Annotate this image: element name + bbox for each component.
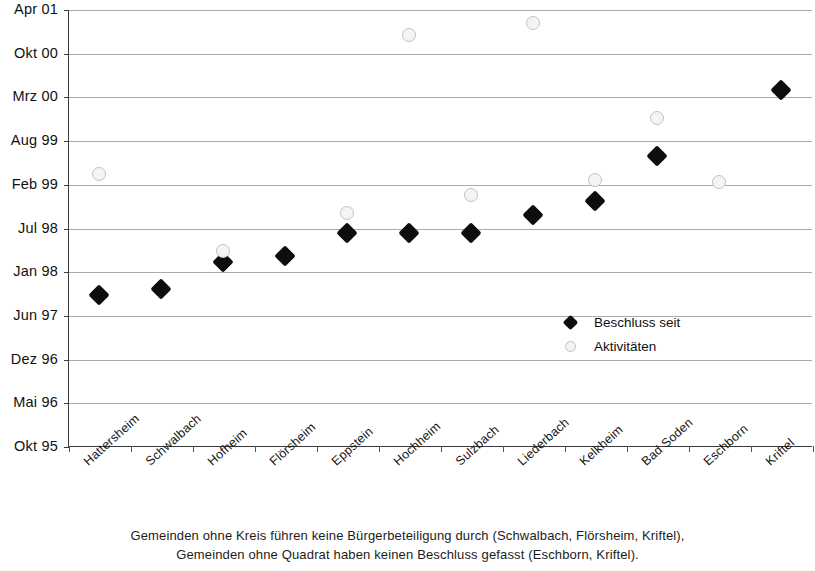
y-axis-tick-label: Mai 96 [0,394,58,410]
x-axis-tick [503,446,504,452]
y-axis-tick [64,360,69,361]
gridline [69,54,812,55]
legend-item-label: Beschluss seit [594,315,680,330]
y-axis-tick-label: Dez 96 [0,351,58,367]
y-axis-tick [64,272,69,273]
marker-aktivitaeten-hofheim [216,244,230,258]
x-axis-tick [193,446,194,452]
x-axis-tick [255,446,256,452]
gridline [69,360,812,361]
plot-area [68,10,812,447]
x-axis-tick [317,446,318,452]
y-axis-tick [64,185,69,186]
marker-aktivitaeten-hochheim [402,28,416,42]
y-axis-tick-label: Jun 97 [0,307,58,323]
gridline [69,185,812,186]
x-axis-tick [751,446,752,452]
marker-aktivitaeten-eppstein [340,206,354,220]
x-axis-tick [565,446,566,452]
legend-item-label: Aktivitäten [594,339,656,354]
x-axis-tick [441,446,442,452]
x-axis-tick [69,446,70,452]
x-axis-tick [131,446,132,452]
y-axis-tick-label: Jan 98 [0,263,58,279]
gridline [69,229,812,230]
y-axis-tick-label: Okt 95 [0,438,58,454]
scatter-chart: Apr 01Okt 00Mrz 00Aug 99Feb 99Jul 98Jan … [0,0,815,571]
marker-aktivitaeten-kelkheim [588,173,602,187]
marker-aktivitaeten-hattersheim [92,167,106,181]
filled-diamond-icon [558,317,582,328]
marker-aktivitaeten-sulzbach [464,188,478,202]
marker-aktivitaeten-bad-soden [650,111,664,125]
marker-aktivitaeten-eschborn [712,175,726,189]
gridline [69,403,812,404]
open-circle-icon [558,341,582,352]
x-axis-tick [813,446,814,452]
y-axis-tick [64,403,69,404]
y-axis-tick-label: Jul 98 [0,220,58,236]
caption-line-1: Gemeinden ohne Kreis führen keine Bürger… [0,528,815,543]
gridline [69,10,812,11]
gridline [69,97,812,98]
x-axis-tick [627,446,628,452]
y-axis-tick-label: Feb 99 [0,176,58,192]
chart-legend: Beschluss seitAktivitäten [558,310,728,358]
marker-aktivitaeten-liederbach [526,16,540,30]
gridline [69,272,812,273]
x-axis-tick [379,446,380,452]
y-axis-tick-label: Okt 00 [0,45,58,61]
y-axis-tick [64,54,69,55]
caption-line-2: Gemeinden ohne Quadrat haben keinen Besc… [0,547,815,562]
y-axis-tick [64,316,69,317]
y-axis-tick [64,10,69,11]
y-axis-tick [64,141,69,142]
y-axis-tick [64,229,69,230]
y-axis-tick-label: Apr 01 [0,1,58,17]
gridline [69,141,812,142]
legend-item-1[interactable]: Beschluss seit [558,310,728,334]
y-axis-tick-label: Mrz 00 [0,88,58,104]
x-axis-tick [689,446,690,452]
y-axis-tick [64,97,69,98]
legend-item-2[interactable]: Aktivitäten [558,334,728,358]
y-axis-tick-label: Aug 99 [0,132,58,148]
